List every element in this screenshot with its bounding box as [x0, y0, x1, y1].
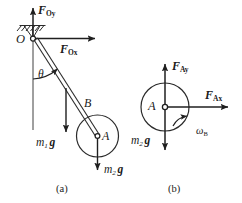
angle-theta-label: θ	[38, 69, 44, 81]
point-a-joint	[95, 134, 100, 139]
force-ay-label: FAy	[172, 60, 189, 72]
weight-m2g-label-panel-a: m2g	[104, 164, 123, 176]
center-a-label: A	[148, 100, 156, 113]
fixed-support-hatching	[17, 26, 46, 32]
force-oy-label: FOy	[38, 4, 56, 16]
point-a-label: A	[102, 130, 109, 142]
center-point-a	[162, 104, 167, 109]
physics-figure: FOy O FOx θ B A m1g m2g (a) FAy A FAx ωB…	[0, 0, 242, 203]
panel-a-graphics	[17, 8, 119, 170]
force-ax-label: FAx	[205, 89, 222, 101]
pivot-label-o: O	[16, 33, 25, 46]
force-ox-label: FOx	[60, 43, 78, 55]
weight-m2g-label-panel-b: m2g	[131, 135, 150, 147]
angular-velocity-label: ωB	[196, 126, 208, 137]
panel-b-caption: (b)	[168, 184, 180, 195]
panel-a-caption: (a)	[56, 184, 68, 195]
weight-m1g-label: m1g	[36, 137, 55, 149]
disc-b-label: B	[84, 97, 91, 109]
